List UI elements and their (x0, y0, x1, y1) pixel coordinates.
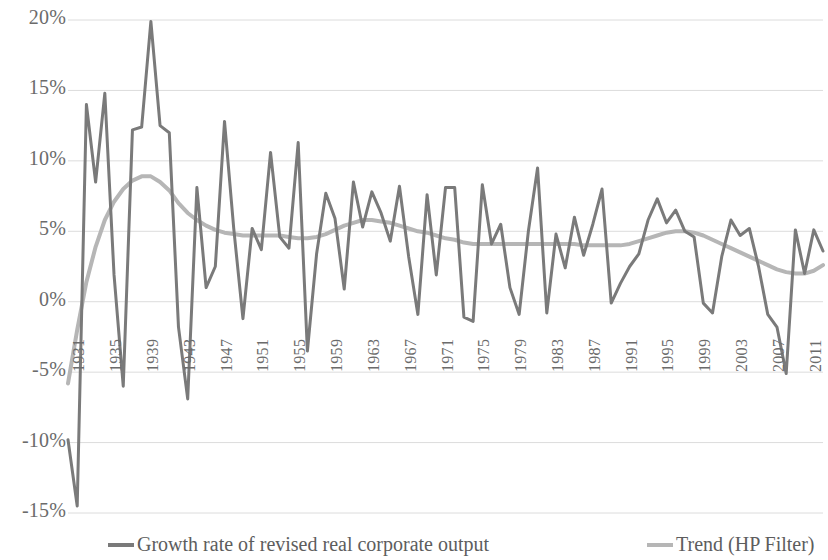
legend-item[interactable]: Trend (HP Filter) (647, 533, 815, 556)
x-axis-tick-label: 1947 (218, 339, 236, 372)
x-axis-tick-label: 1983 (549, 339, 567, 372)
x-axis-tick-label: 1935 (107, 339, 125, 372)
x-axis-tick-label: 1943 (181, 339, 199, 372)
x-axis-tick-label: 2007 (770, 339, 788, 372)
x-axis-tick-label: 1955 (291, 339, 309, 372)
x-axis-tick-label: 1991 (623, 339, 641, 372)
x-axis-tick-label: 2003 (733, 339, 751, 372)
x-axis-tick-label: 1939 (144, 339, 162, 372)
legend-label: Trend (HP Filter) (676, 533, 815, 556)
x-axis-tick-label: 1959 (328, 339, 346, 372)
x-axis-tick-label: 1931 (70, 339, 88, 372)
x-axis-tick-label: 1999 (696, 339, 714, 372)
x-axis-tick-label: 1975 (475, 339, 493, 372)
chart-legend: Growth rate of revised real corporate ou… (0, 525, 828, 560)
x-axis-tick-label: 1979 (512, 339, 530, 372)
legend-label: Growth rate of revised real corporate ou… (137, 533, 489, 556)
x-axis-tick-label: 1951 (254, 339, 272, 372)
x-axis-tick-label: 1963 (365, 339, 383, 372)
legend-color-swatch-icon (108, 543, 134, 547)
x-axis-tick-labels: 1931193519391943194719511955195919631967… (0, 0, 828, 560)
chart-container: 20%15%10%5%0%-5%-10%-15% 193119351939194… (0, 0, 828, 560)
x-axis-tick-label: 1971 (439, 339, 457, 372)
x-axis-tick-label: 1987 (586, 339, 604, 372)
x-axis-tick-label: 1967 (402, 339, 420, 372)
x-axis-tick-label: 2011 (807, 339, 825, 372)
legend-color-swatch-icon (647, 543, 673, 547)
x-axis-tick-label: 1995 (659, 339, 677, 372)
legend-item[interactable]: Growth rate of revised real corporate ou… (108, 533, 489, 556)
